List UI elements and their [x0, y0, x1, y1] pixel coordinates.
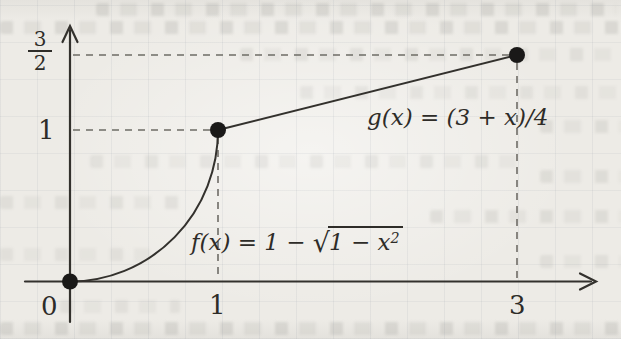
- scanned-book-page: 3 2 1 0 1 3 g(x) = (3 + x)/4 f(x) = 1 − …: [0, 0, 621, 339]
- x-tick-label-one: 1: [209, 292, 226, 318]
- y-tick-label-three-halves: 3 2: [28, 29, 52, 73]
- curve-f: [70, 130, 218, 282]
- function-plot: [0, 0, 621, 339]
- radical-sign: √: [313, 227, 328, 258]
- point-origin: [62, 274, 78, 290]
- x-tick-label-zero: 0: [41, 293, 58, 319]
- g-equation-label: g(x) = (3 + x)/4: [367, 105, 548, 130]
- radicand: 1 − x2: [328, 226, 403, 255]
- axes: [25, 26, 596, 322]
- f-equation-label: f(x) = 1 − √1 − x2: [191, 228, 403, 258]
- f-equation-prefix: f(x) = 1 −: [191, 229, 306, 255]
- y-tick-label-one: 1: [38, 117, 55, 143]
- point-1-1: [210, 122, 226, 138]
- radicand-exponent: 2: [391, 230, 400, 246]
- fraction-numerator: 3: [28, 29, 52, 52]
- fraction-denominator: 2: [28, 52, 52, 73]
- square-root-expression: √1 − x2: [313, 229, 403, 255]
- radicand-text: 1 − x: [329, 229, 391, 255]
- x-tick-label-three: 3: [509, 292, 526, 318]
- point-3-three-halves: [509, 47, 525, 63]
